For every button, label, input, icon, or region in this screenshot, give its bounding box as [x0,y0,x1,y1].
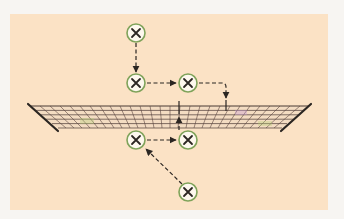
player-p4 [127,131,145,149]
player-p6 [179,183,197,201]
player-p5 [179,131,197,149]
player-p1 [127,24,145,42]
drill-diagram [0,0,344,219]
player-p3 [179,74,197,92]
volleyball-net [28,104,311,131]
arrow-p3-to-net [199,83,226,98]
arrow-p6-to-p4 [146,149,182,184]
player-p2 [127,74,145,92]
